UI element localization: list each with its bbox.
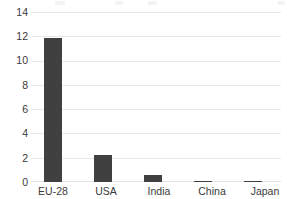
y-tick-label: 6	[4, 104, 28, 115]
bar-usa	[94, 155, 112, 182]
y-tick-label: 14	[4, 7, 28, 18]
top-remnant-fragment	[278, 1, 285, 5]
bar-chart: 14 12 10 8 6 4 2 0 EU-28 USA India China…	[0, 0, 287, 199]
y-tick-label: 4	[4, 128, 28, 139]
y-axis: 14 12 10 8 6 4 2 0	[0, 0, 28, 199]
bar-japan	[244, 181, 262, 182]
plot-area	[31, 12, 281, 182]
y-tick-label: 12	[4, 31, 28, 42]
y-tick-label: 8	[4, 80, 28, 91]
top-remnant-fragment	[55, 1, 65, 5]
top-remnant-fragment	[148, 1, 157, 5]
x-tick-label-japan: Japan	[234, 185, 287, 198]
bar-eu-28	[44, 38, 62, 183]
top-remnant-fragment	[115, 1, 123, 5]
y-tick-label: 2	[4, 153, 28, 164]
bar-china	[194, 181, 212, 182]
x-axis: EU-28 USA India China Japan	[31, 185, 281, 199]
bar-india	[144, 175, 162, 182]
y-tick-label: 10	[4, 55, 28, 66]
bar-series	[31, 12, 281, 182]
